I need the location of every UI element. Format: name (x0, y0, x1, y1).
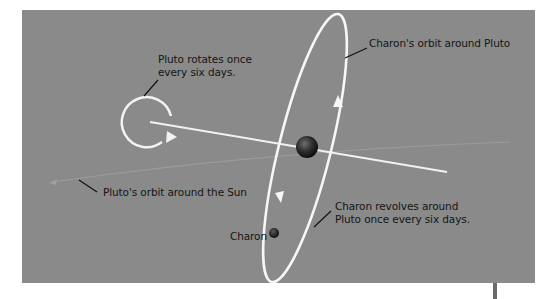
label-pluto-rotation: Pluto rotates once every six days. (158, 53, 252, 79)
label-charon: Charon (230, 230, 267, 243)
charon-moon (269, 228, 279, 238)
label-charon-revolves: Charon revolves around Pluto once every … (335, 200, 470, 226)
label-pluto-sun-orbit: Pluto's orbit around the Sun (103, 186, 247, 199)
leader-pluto-sun-orbit (79, 180, 97, 192)
leader-pluto-rotation (144, 80, 158, 96)
pluto-sun-orbit-line (49, 142, 510, 185)
corner-mark (493, 283, 497, 299)
leader-charon-revolves (314, 211, 331, 227)
leader-charon-orbit (345, 48, 367, 58)
pluto-planet (296, 136, 318, 158)
rotation-arrow-icon (122, 97, 177, 147)
label-charon-orbit: Charon's orbit around Pluto (369, 37, 510, 50)
